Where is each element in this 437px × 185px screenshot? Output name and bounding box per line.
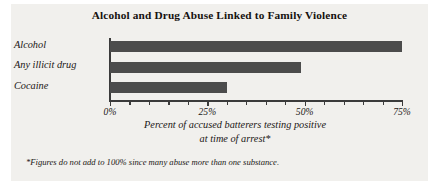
bar-cocaine (110, 82, 227, 93)
x-tick-40 (266, 101, 267, 105)
x-tick-label-75: 75% (393, 106, 411, 117)
x-tick-20 (188, 101, 189, 105)
x-axis-caption: Percent of accused batterers testing pos… (90, 118, 380, 145)
bar-any-illicit-drug (110, 62, 301, 73)
x-tick-10 (149, 101, 150, 105)
chart-title: Alcohol and Drug Abuse Linked to Family … (11, 9, 428, 21)
x-tick-30 (227, 101, 228, 105)
x-tick-60 (344, 101, 345, 105)
x-axis-caption-line-2: at time of arrest* (90, 132, 380, 146)
category-label-any-illicit-drug: Any illicit drug (14, 59, 76, 70)
chart-footnote: *Figures do not add to 100% since many a… (26, 157, 279, 167)
x-tick-70 (383, 101, 384, 105)
category-axis-labels: AlcoholAny illicit drugCocaine (14, 38, 106, 100)
x-tick-55 (324, 101, 325, 105)
chart-figure: Alcohol and Drug Abuse Linked to Family … (0, 0, 437, 185)
x-tick-5 (129, 101, 130, 105)
bar-alcohol (110, 41, 402, 52)
x-axis-caption-line-1: Percent of accused batterers testing pos… (90, 118, 380, 132)
x-axis-line (109, 100, 403, 102)
category-label-alcohol: Alcohol (14, 39, 46, 50)
plot-area: 0%25%50%75% (110, 38, 402, 100)
x-tick-35 (246, 101, 247, 105)
x-tick-45 (285, 101, 286, 105)
x-tick-65 (363, 101, 364, 105)
x-tick-label-0: 0% (104, 106, 117, 117)
category-label-cocaine: Cocaine (14, 80, 48, 91)
x-tick-label-25: 25% (199, 106, 217, 117)
x-tick-15 (168, 101, 169, 105)
x-tick-label-50: 50% (296, 106, 314, 117)
